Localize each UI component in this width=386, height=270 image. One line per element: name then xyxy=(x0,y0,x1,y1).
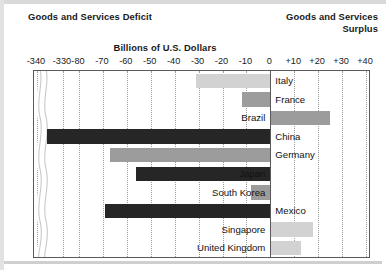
chart-page: Goods and Services Deficit Goods and Ser… xyxy=(0,0,386,270)
surplus-heading-line2: Surplus xyxy=(342,23,378,34)
axis-tick-minus30: -30 xyxy=(191,56,204,66)
bar-row: France xyxy=(34,90,369,109)
bar-row: United Kingdom xyxy=(34,239,369,258)
bar-label-south-korea: South Korea xyxy=(212,186,270,199)
bar-row: Germany xyxy=(34,146,369,165)
bar-row: China xyxy=(34,127,369,146)
axis-tick-minus60: -60 xyxy=(119,56,132,66)
bar-label-italy: Italy xyxy=(270,74,293,87)
bar-label-united-kingdom: United Kingdom xyxy=(197,241,270,254)
surplus-heading-line1: Goods and Services xyxy=(286,11,378,22)
bar-germany xyxy=(110,148,270,163)
axis-tick-minus340: -340 xyxy=(27,56,45,66)
axis-tick-plus10: +10 xyxy=(285,56,301,66)
axis-tick-minus40: -40 xyxy=(167,56,180,66)
axis-tick-minus50: -50 xyxy=(143,56,156,66)
axis-tick-minus20: -20 xyxy=(215,56,228,66)
bar-row: Mexico xyxy=(34,202,369,221)
axis-tick-minus10: -10 xyxy=(239,56,252,66)
bar-row: Japan xyxy=(34,165,369,184)
bar-label-france: France xyxy=(270,93,305,106)
bar-singapore xyxy=(270,222,313,237)
page-left-edge xyxy=(0,0,4,270)
bar-row: Brazil xyxy=(34,109,369,128)
axis-tick-plus40: +40 xyxy=(357,56,373,66)
axis-tick-minus70: -70 xyxy=(95,56,108,66)
page-top-rule xyxy=(0,0,386,4)
bar-row: Italy xyxy=(34,72,369,91)
axis-tick-0: 0 xyxy=(267,56,272,66)
bar-france xyxy=(242,92,271,107)
bar-mexico xyxy=(105,204,270,219)
bar-brazil xyxy=(270,111,330,126)
axis-tick-minus80: -80 xyxy=(71,56,84,66)
plot-area: ItalyFranceBrazilChinaGermanyJapanSouth … xyxy=(33,70,370,258)
axis-tick-plus20: +20 xyxy=(309,56,325,66)
axis-units-title: Billions of U.S. Dollars xyxy=(0,42,330,53)
deficit-heading: Goods and Services Deficit xyxy=(28,11,152,22)
bar-row: South Korea xyxy=(34,183,369,202)
bar-label-germany: Germany xyxy=(270,148,314,161)
axis-tick-plus30: +30 xyxy=(333,56,349,66)
bar-label-mexico: Mexico xyxy=(270,204,305,217)
bar-china xyxy=(47,129,270,144)
bar-label-singapore: Singapore xyxy=(222,223,271,236)
bar-label-japan: Japan xyxy=(239,167,270,180)
bar-united-kingdom xyxy=(270,241,301,256)
page-bottom-rule xyxy=(4,261,382,264)
bar-row: Singapore xyxy=(34,220,369,239)
bar-label-brazil: Brazil xyxy=(241,111,270,124)
zero-axis-line xyxy=(270,71,271,257)
axis-tick-minus330: -330 xyxy=(53,56,71,66)
bar-label-china: China xyxy=(270,130,300,143)
surplus-heading: Goods and Services Surplus xyxy=(258,11,378,34)
bar-italy xyxy=(196,74,270,89)
